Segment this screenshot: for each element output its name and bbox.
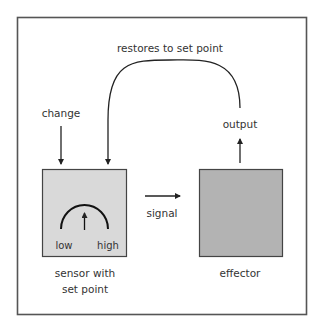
sensor-label-line1: sensor with bbox=[55, 267, 115, 279]
effector-label: effector bbox=[220, 267, 261, 279]
gauge-high-label: high bbox=[97, 240, 119, 251]
signal-label: signal bbox=[146, 207, 177, 219]
output-label: output bbox=[223, 118, 258, 130]
gauge-low-label: low bbox=[55, 240, 72, 251]
effector-box bbox=[200, 170, 283, 257]
change-label: change bbox=[42, 107, 81, 119]
feedback-label: restores to set point bbox=[117, 42, 223, 54]
homeostasis-diagram: restores to set point change low high se… bbox=[0, 0, 323, 327]
sensor-label-line2: set point bbox=[62, 283, 108, 295]
